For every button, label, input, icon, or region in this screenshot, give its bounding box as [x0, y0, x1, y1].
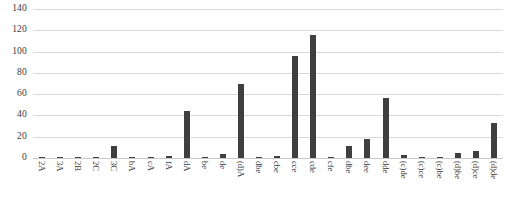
x-axis-tick-slot: 3A [51, 160, 69, 203]
x-axis-tick-label: (d)ce [472, 161, 481, 178]
y-axis-tick: 140 [12, 4, 27, 14]
x-axis-tick-label: dbe [345, 161, 354, 173]
x-axis-tick-slot: cfe [322, 160, 340, 203]
x-axis-tick-label: cde [309, 161, 318, 173]
bar-slot [358, 9, 376, 158]
bar-slot [304, 9, 322, 158]
bar-slot [286, 9, 304, 158]
y-axis-tick: 0 [22, 153, 27, 163]
bar-slot [395, 9, 413, 158]
x-axis-tick-label: dA [182, 161, 191, 171]
bar [419, 157, 425, 158]
bar [184, 111, 190, 158]
bar-slot [268, 9, 286, 158]
x-axis-tick-label: be [200, 161, 209, 169]
y-axis-tick: 40 [17, 111, 27, 121]
x-axis-tick-label: 2B [74, 161, 83, 171]
x-axis-tick-slot: cce [286, 160, 304, 203]
x-axis-tick-slot: (d)A [232, 160, 250, 203]
bar [437, 157, 443, 158]
x-axis-tick-label: cce [291, 161, 300, 172]
bar [220, 154, 226, 158]
x-axis-tick-label: (c)de [399, 161, 408, 178]
x-axis-tick-label: cbe [273, 161, 282, 173]
bar [75, 157, 81, 158]
bar-slot [178, 9, 196, 158]
x-axis-tick-slot: cde [304, 160, 322, 203]
x-axis-tick-label: cfe [327, 161, 336, 171]
bar-slot [69, 9, 87, 158]
bar-slot [160, 9, 178, 158]
x-axis-tick-label: (d)A [237, 161, 246, 177]
bar-slot [250, 9, 268, 158]
bar-slot [431, 9, 449, 158]
bar [129, 157, 135, 158]
bar [148, 157, 154, 158]
x-axis-tick-slot: cA [141, 160, 159, 203]
y-axis-tick: 60 [17, 89, 27, 99]
bar [328, 157, 334, 158]
x-axis-tick-label: dbe [255, 161, 264, 173]
bar [274, 156, 280, 158]
bar [238, 84, 244, 159]
x-axis-tick-slot: 2C [87, 160, 105, 203]
x-axis-tick-slot: dde [376, 160, 394, 203]
bar-slot [87, 9, 105, 158]
bar [202, 157, 208, 158]
bar-slot [123, 9, 141, 158]
bar-slot [33, 9, 51, 158]
y-axis: 140 120 100 80 60 40 20 0 [0, 0, 31, 158]
y-axis-tick: 80 [17, 68, 27, 78]
bar-chart: 140 120 100 80 60 40 20 0 2A3A2B2C3CbAcA… [0, 0, 510, 203]
bar-slot [485, 9, 503, 158]
x-axis-tick-slot: de [214, 160, 232, 203]
bar [57, 157, 63, 158]
bar-slot [340, 9, 358, 158]
x-axis-tick-slot: 2A [33, 160, 51, 203]
x-axis-tick-label: bA [128, 161, 137, 171]
gridline [33, 158, 503, 159]
bar-slot [196, 9, 214, 158]
bar-series [33, 9, 503, 158]
x-axis-tick-label: cA [146, 161, 155, 171]
x-axis-tick-label: dee [363, 161, 372, 173]
bar [455, 153, 461, 158]
bar-slot [51, 9, 69, 158]
x-axis-tick-slot: dA [178, 160, 196, 203]
bar [166, 156, 172, 158]
bar [473, 151, 479, 158]
bar [310, 35, 316, 158]
bar-slot [232, 9, 250, 158]
bar [39, 157, 45, 158]
x-axis-tick-label: 3C [110, 161, 119, 171]
bar-slot [413, 9, 431, 158]
x-axis-tick-label: 2C [92, 161, 101, 171]
y-axis-tick: 100 [12, 47, 27, 57]
x-axis: 2A3A2B2C3CbAcAfAdAbede(d)Adbecbeccecdecf… [33, 160, 503, 203]
bar-slot [322, 9, 340, 158]
x-axis-tick-slot: dee [358, 160, 376, 203]
bar [346, 146, 352, 158]
bar [383, 98, 389, 158]
x-axis-tick-slot: bA [123, 160, 141, 203]
x-axis-tick-slot: cbe [268, 160, 286, 203]
bar [111, 146, 117, 158]
x-axis-tick-label: 2A [38, 161, 47, 171]
x-axis-tick-label: 3A [56, 161, 65, 171]
x-axis-tick-slot: (c)ce [413, 160, 431, 203]
plot-area [33, 9, 503, 158]
bar [364, 139, 370, 158]
y-axis-tick: 20 [17, 132, 27, 142]
bar-slot [214, 9, 232, 158]
x-axis-tick-slot: fA [160, 160, 178, 203]
x-axis-tick-slot: be [196, 160, 214, 203]
x-axis-tick-label: de [219, 161, 228, 169]
bar [93, 157, 99, 158]
x-axis-tick-label: (c)ce [417, 161, 426, 178]
x-axis-tick-label: dde [381, 161, 390, 173]
x-axis-tick-slot: dbe [340, 160, 358, 203]
bar-slot [467, 9, 485, 158]
x-axis-tick-slot: (d)ce [467, 160, 485, 203]
bar-slot [449, 9, 467, 158]
bar-slot [105, 9, 123, 158]
